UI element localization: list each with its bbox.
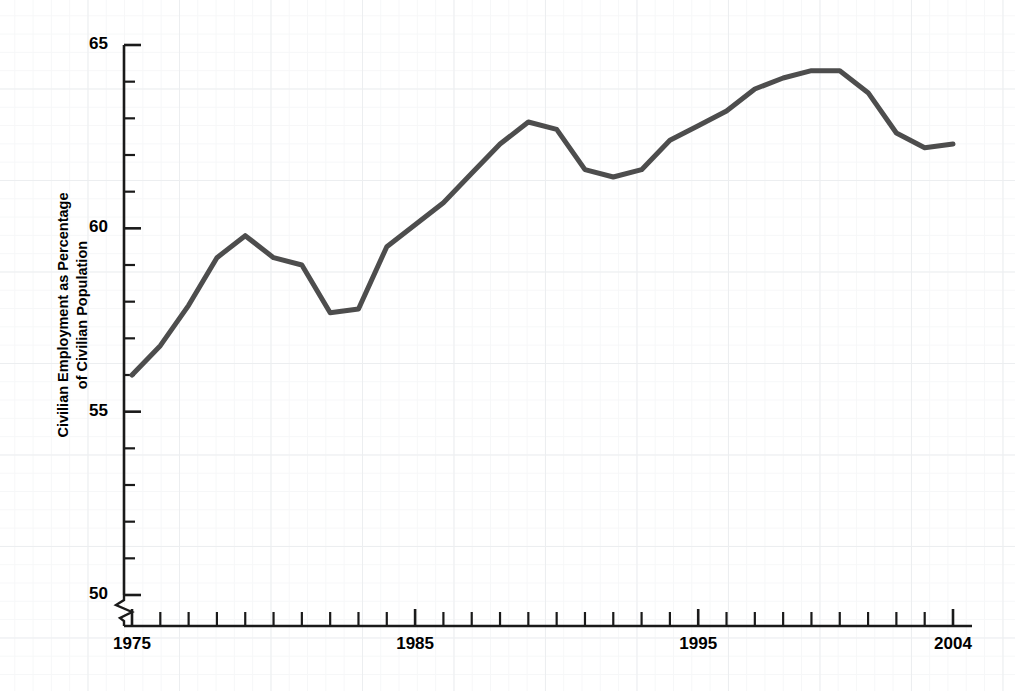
y-axis-title-line-1: Civilian Employment as Percentage xyxy=(54,145,73,485)
y-axis-title: Civilian Employment as Percentage of Civ… xyxy=(54,145,92,485)
x-axis-ticks xyxy=(132,609,953,626)
chart-plot-svg xyxy=(0,0,1015,691)
y-axis-tick-label: 65 xyxy=(56,34,108,54)
data-series-group xyxy=(132,71,953,375)
x-axis-tick-label: 1975 xyxy=(92,634,172,654)
y-axis-tick-label: 60 xyxy=(56,217,108,237)
y-axis-ticks xyxy=(124,45,141,595)
x-axis-tick-label: 1995 xyxy=(658,634,738,654)
x-axis-tick-label: 2004 xyxy=(913,634,993,654)
chart-container: Civilian Employment as Percentage of Civ… xyxy=(0,0,1015,691)
employment-rate-line xyxy=(132,71,953,375)
y-axis-break-symbol xyxy=(116,595,132,626)
x-axis-tick-label: 1985 xyxy=(375,634,455,654)
axes-group xyxy=(116,45,972,626)
y-axis-tick-label: 55 xyxy=(56,401,108,421)
y-axis-tick-label: 50 xyxy=(56,584,108,604)
y-axis-title-line-2: of Civilian Population xyxy=(73,145,92,485)
